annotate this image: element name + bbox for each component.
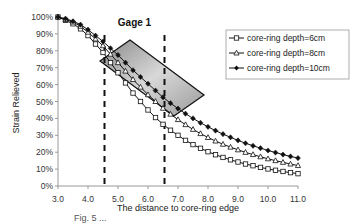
y-tick-label: 70% [36,63,53,73]
y-tick-label: 60% [36,80,53,90]
y-tick-label: 40% [36,113,53,123]
legend-label: core-ring depth=8cm [247,48,325,58]
gage-1-region [100,40,204,116]
legend-label: core-ring depth=10cm [247,63,330,73]
y-tick-label: 0% [41,181,54,191]
x-tick-label: 3.0 [52,194,64,204]
y-tick-label: 30% [36,130,53,140]
chart-legend: core-ring depth=6cmcore-ring depth=8cmco… [226,30,349,79]
y-tick-label: 50% [36,97,53,107]
x-tick-label: 4.0 [82,194,94,204]
gage-1-label: Gage 1 [118,17,152,28]
y-tick-label: 80% [36,46,53,56]
y-axis-title: Strain Relieved [11,72,21,133]
y-tick-label: 20% [36,147,53,157]
x-axis-title: The distance to core-ring edge [117,203,239,213]
strain-relieved-chart: 0%10%20%30%40%50%60%70%80%90%100%3.04.05… [0,0,362,224]
y-tick-label: 90% [36,29,53,39]
y-tick-label: 10% [36,164,53,174]
figure-caption: Fig. 5 ... [74,213,107,223]
x-tick-label: 10.0 [260,194,277,204]
y-tick-label: 100% [31,12,53,22]
x-tick-label: 11.0 [290,194,306,204]
legend-label: core-ring depth=6cm [247,33,325,43]
gage-1-rectangle [100,40,204,116]
